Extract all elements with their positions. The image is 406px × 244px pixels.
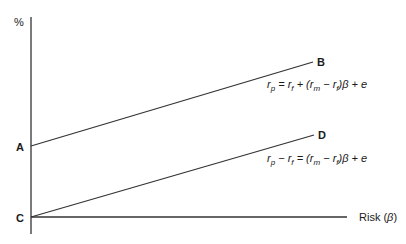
point-d-label: D	[318, 129, 326, 141]
equation-lower: rp − rf = (rm − rf)β + e	[267, 152, 367, 167]
equation-upper: rp = rf + (rm − rf)β + e	[267, 78, 367, 93]
point-c-label: C	[16, 212, 24, 224]
x-axis-label: Risk (β)	[359, 211, 397, 223]
y-axis-label: %	[14, 16, 24, 28]
line-a-b	[31, 62, 313, 146]
security-market-line-diagram: % Risk (β) A C B D rp = rf + (rm − rf)β …	[0, 0, 406, 244]
line-c-d	[31, 135, 314, 217]
point-a-label: A	[16, 141, 24, 153]
point-b-label: B	[317, 56, 325, 68]
